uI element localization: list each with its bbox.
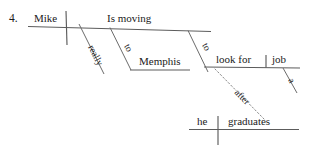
item-number: 4. <box>9 12 18 24</box>
diagram-canvas: 4. Mike Is moving really to Memphis to l… <box>0 0 310 146</box>
subject-mike: Mike <box>34 12 57 24</box>
subordinate-subject-he: he <box>197 115 208 127</box>
infinitive-object-job-label: job <box>271 53 287 65</box>
subordinate-verb-graduates: graduates <box>228 115 270 127</box>
infinitive-baseline <box>204 67 300 68</box>
predicate-is-moving: Is moving <box>107 12 152 24</box>
sentence-diagram-page: 4. Mike Is moving really to Memphis to l… <box>0 0 310 146</box>
main-baseline <box>28 27 211 32</box>
prep-to-second-label: to <box>200 41 212 52</box>
subject-predicate-divider <box>66 11 67 45</box>
adverb-really-label: really <box>86 43 105 67</box>
prep-object-memphis-label: Memphis <box>139 55 181 67</box>
infinitive-verb-label: look for <box>216 53 251 65</box>
prep-to-first-label: to <box>122 42 134 53</box>
